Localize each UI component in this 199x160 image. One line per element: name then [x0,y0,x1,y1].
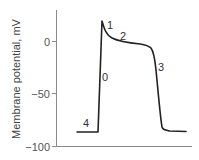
phase-label-3: 3 [158,61,164,73]
y-axis-label: Membrane potential, mV [10,18,22,138]
phase-label-1: 1 [107,19,113,31]
y-tick-label-minus100: −100 [25,141,50,153]
phase-label-4: 4 [83,117,89,129]
action-potential-chart: 0 −50 −100 Membrane potential, mV 0 1 2 … [0,0,199,160]
action-potential-trace [77,21,186,132]
y-tick-label-0: 0 [44,36,50,48]
y-tick-label-minus50: −50 [31,88,50,100]
phase-label-0: 0 [102,71,108,83]
phase-label-2: 2 [120,30,126,42]
